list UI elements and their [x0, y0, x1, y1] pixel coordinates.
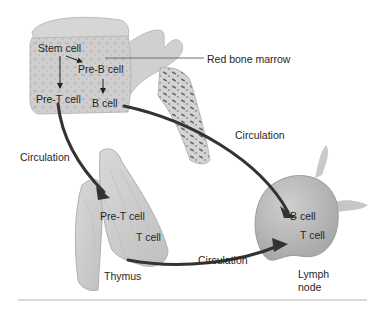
label-circulation-marrow-to-node: Circulation — [235, 129, 285, 141]
label-pre-t-cell-thymus: Pre-T cell — [100, 210, 145, 222]
lymph-node-illustration — [255, 145, 368, 260]
label-stem-cell: Stem cell — [38, 42, 81, 54]
label-b-cell-marrow: B cell — [92, 97, 118, 109]
label-t-cell-node: T cell — [300, 229, 325, 241]
lymphocyte-diagram: Stem cell Pre-B cell Pre-T cell B cell R… — [0, 0, 385, 309]
bone-illustration — [30, 17, 210, 163]
label-lymph-node-line1: Lymph — [298, 268, 329, 280]
label-circulation-thymus-to-node: Circulation — [198, 254, 248, 266]
label-thymus: Thymus — [104, 270, 141, 282]
label-circulation-marrow-to-thymus: Circulation — [20, 151, 70, 163]
label-lymph-node-line2: node — [298, 281, 321, 293]
label-pre-t-cell-marrow: Pre-T cell — [36, 93, 81, 105]
label-b-cell-node: B cell — [290, 210, 316, 222]
label-t-cell-thymus: T cell — [136, 231, 161, 243]
label-pre-b-cell: Pre-B cell — [78, 63, 124, 75]
label-red-bone-marrow: Red bone marrow — [207, 53, 290, 65]
